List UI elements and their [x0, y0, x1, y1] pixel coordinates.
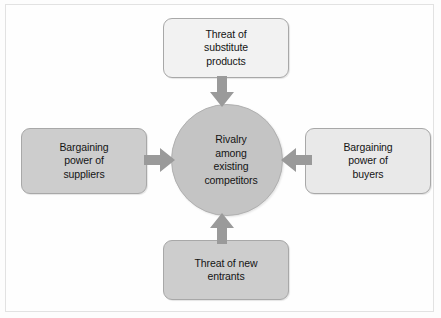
force-box-label: Bargainingpower ofsuppliers: [53, 141, 114, 182]
force-box-threat-of-substitutes[interactable]: Threat ofsubstituteproducts: [163, 18, 289, 78]
center-circle-label: Rivalryamongexistingcompetitors: [196, 133, 257, 187]
force-box-bargaining-power-of-suppliers[interactable]: Bargainingpower ofsuppliers: [21, 128, 147, 194]
diagram-canvas: Threat ofsubstituteproducts Bargainingpo…: [0, 0, 441, 318]
arrow-left-icon: [280, 144, 312, 176]
force-box-threat-of-new-entrants[interactable]: Threat of newentrants: [163, 240, 289, 300]
force-box-label: Threat of newentrants: [189, 257, 264, 284]
force-box-bargaining-power-of-buyers[interactable]: Bargainingpower ofbuyers: [305, 128, 431, 194]
force-box-label: Bargainingpower ofbuyers: [337, 141, 398, 182]
arrow-up-icon: [206, 212, 238, 244]
arrow-down-icon: [206, 76, 238, 108]
arrow-right-icon: [144, 144, 176, 176]
force-box-label: Threat ofsubstituteproducts: [198, 28, 254, 69]
center-circle-rivalry[interactable]: Rivalryamongexistingcompetitors: [171, 104, 283, 216]
